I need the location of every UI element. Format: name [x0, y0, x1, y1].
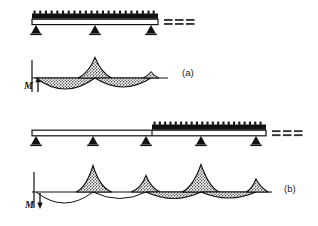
continuation-marker-b-icon [272, 130, 303, 136]
moment-region-a-span1 [36, 78, 95, 89]
beam-moment-figure: (a) M [0, 0, 318, 226]
support-a-1 [30, 25, 42, 35]
moment-axis-label-b: M [24, 199, 35, 210]
support-b-1 [30, 136, 42, 146]
panel-caption-b: (b) [284, 183, 296, 194]
moment-region-b-support4 [182, 165, 219, 193]
moment-region-b-support5 [246, 179, 268, 192]
moment-axis-label-a: M [23, 80, 34, 91]
beam-member-b [32, 130, 266, 136]
beam-member-a [32, 19, 158, 24]
moment-diagram-a [32, 58, 168, 93]
moment-region-b-span3 [146, 192, 201, 199]
moment-region-a-support2 [78, 58, 112, 79]
panel-a: (a) M [23, 11, 195, 92]
moment-region-b-span2 [93, 192, 146, 199]
support-b-2 [87, 136, 99, 146]
moment-region-a-span2 [95, 78, 151, 87]
distributed-load-b-icon [152, 122, 266, 130]
moment-region-b-span1 [36, 192, 93, 203]
panel-b: (b) M [24, 122, 303, 210]
moment-region-b-support3 [131, 176, 160, 193]
support-a-2 [89, 25, 101, 35]
continuation-marker-a-icon [164, 19, 195, 25]
moment-region-b-support2 [76, 166, 112, 193]
support-b-4 [195, 136, 207, 146]
panel-caption-a: (a) [182, 67, 194, 78]
moment-region-a-support3 [143, 72, 159, 79]
moment-diagram-b [32, 165, 272, 210]
figure-root: (a) M [0, 0, 318, 226]
moment-region-b-span4 [201, 192, 256, 198]
beam-a [30, 11, 194, 35]
beam-b [30, 122, 302, 147]
support-b-5 [250, 136, 262, 146]
distributed-load-a-icon [32, 11, 158, 19]
support-b-3 [140, 136, 152, 146]
support-a-3 [145, 25, 157, 35]
